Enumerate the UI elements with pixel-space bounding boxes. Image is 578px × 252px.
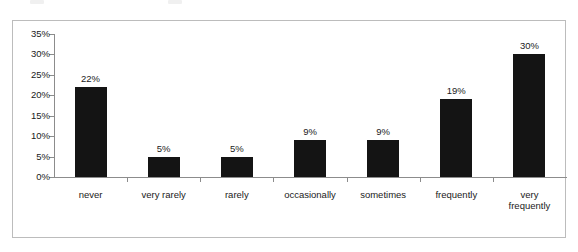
- y-axis-line: [54, 34, 55, 178]
- bar: [294, 140, 326, 177]
- bar: [148, 157, 180, 177]
- x-axis-tick: [420, 178, 421, 182]
- x-axis-tick: [127, 178, 128, 182]
- bar-value-label: 5%: [157, 144, 171, 154]
- bar-value-label: 22%: [81, 74, 100, 84]
- chart-plot-frame: 35%30%25%20%15%10%5%0% neververy rarelyr…: [12, 20, 566, 238]
- bar-value-label: 9%: [303, 127, 317, 137]
- bar: [440, 99, 472, 177]
- x-axis-category-label: sometimes: [360, 189, 406, 200]
- x-axis-category-label: never: [79, 189, 103, 200]
- bar: [367, 140, 399, 177]
- y-axis-tick-label: 25%: [31, 70, 50, 80]
- bar: [75, 87, 107, 177]
- bar: [221, 157, 253, 177]
- x-axis-category-label: occasionally: [284, 189, 336, 200]
- bar-value-label: 5%: [230, 144, 244, 154]
- bar-value-label: 30%: [520, 41, 539, 51]
- y-axis-tick-label: 20%: [31, 91, 50, 101]
- x-axis-category-label: very frequently: [509, 189, 551, 211]
- y-axis-tick-label: 0%: [36, 172, 50, 182]
- y-axis-tick-label: 5%: [36, 152, 50, 162]
- x-axis-tick: [347, 178, 348, 182]
- y-axis-tick-label: 15%: [31, 111, 50, 121]
- chart-figure: 35%30%25%20%15%10%5%0% neververy rarelyr…: [0, 0, 578, 252]
- y-axis-tick-label: 35%: [31, 29, 50, 39]
- x-axis-tick: [493, 178, 494, 182]
- y-axis-tick-label: 10%: [31, 131, 50, 141]
- bar-value-label: 19%: [447, 86, 466, 96]
- clipped-text-artifact: [168, 0, 182, 4]
- x-axis-tick: [273, 178, 274, 182]
- x-axis-line: [54, 177, 567, 178]
- x-axis-category-label: rarely: [225, 189, 249, 200]
- bar: [513, 54, 545, 177]
- x-axis-tick: [200, 178, 201, 182]
- bar-value-label: 9%: [376, 127, 390, 137]
- y-axis-tick-label: 30%: [31, 50, 50, 60]
- clipped-text-artifact: [30, 0, 44, 4]
- x-axis-category-label: very rarely: [142, 189, 186, 200]
- x-axis-category-label: frequently: [435, 189, 477, 200]
